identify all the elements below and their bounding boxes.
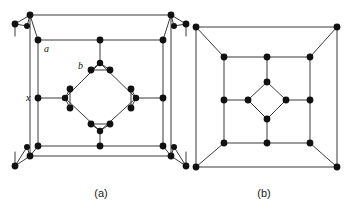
atom-node [35, 143, 42, 150]
figure-container: a b x (a) [0, 0, 351, 210]
crystal-structure-figure: a b x (a) [0, 0, 351, 210]
caption-panel-a: (a) [94, 187, 107, 199]
atom-node [193, 164, 200, 171]
atom-node [193, 24, 200, 31]
atom-node [27, 153, 34, 160]
atom-node [183, 163, 190, 170]
atom-node [160, 95, 167, 102]
atom-node [168, 153, 175, 160]
atom-node [221, 54, 228, 61]
atom-node [62, 95, 68, 101]
atom-node [97, 143, 104, 150]
atom-node [221, 97, 228, 104]
label-a: a [44, 43, 49, 54]
atom-node [171, 23, 177, 29]
atom-node [133, 95, 139, 101]
atom-node [307, 97, 314, 104]
atom-node [334, 164, 341, 171]
atom-node [307, 54, 314, 61]
atom-node [97, 37, 104, 44]
atom-node [283, 97, 290, 104]
atom-node [88, 121, 95, 128]
atom-node [160, 37, 167, 44]
label-x: x [25, 92, 31, 103]
atom-node [107, 121, 114, 128]
atom-node-x [35, 95, 42, 102]
atom-node-b [97, 60, 103, 66]
atom-node [24, 144, 30, 150]
atom-node [264, 79, 271, 86]
atom-node [67, 86, 74, 93]
atom-node [334, 24, 341, 31]
atom-node [12, 163, 19, 170]
atom-node [245, 97, 252, 104]
atom-node [27, 12, 34, 19]
atom-node [307, 140, 314, 147]
atom-node [171, 144, 177, 150]
atom-node [128, 105, 135, 112]
atom-node [221, 140, 228, 147]
figure-background [0, 0, 351, 210]
atom-node [128, 86, 135, 93]
atom-node [160, 143, 167, 150]
atom-node [97, 128, 103, 134]
atom-node [12, 21, 19, 28]
label-b: b [78, 60, 83, 71]
atom-node [183, 21, 190, 28]
atom-node [107, 67, 114, 74]
atom-node [264, 140, 271, 147]
atom-node [67, 105, 74, 112]
atom-node [88, 67, 95, 74]
atom-node [24, 23, 30, 29]
caption-panel-b: (b) [257, 187, 270, 199]
atom-node [264, 116, 271, 123]
atom-node [168, 12, 175, 19]
atom-node [264, 54, 271, 61]
atom-node [35, 37, 42, 44]
